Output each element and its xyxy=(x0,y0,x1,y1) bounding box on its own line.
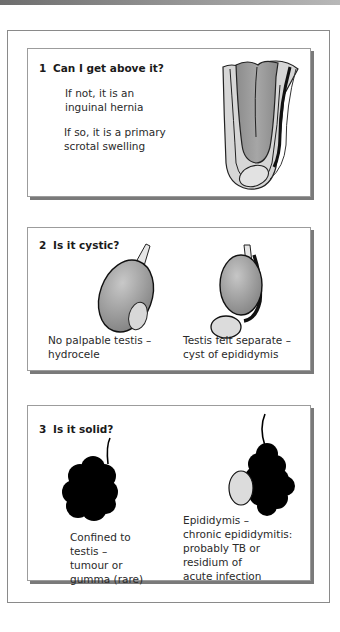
chronic-epididymitis-illustration xyxy=(223,412,303,522)
epididymal-cyst-caption: Testis felt separate – cyst of epididymi… xyxy=(183,333,291,361)
panel-number: 3 xyxy=(39,423,53,435)
scrotal-swelling-text: If so, it is a primary scrotal swelling xyxy=(64,125,166,153)
inguinal-hernia-illustration xyxy=(218,55,308,195)
hydrocele-caption: No palpable testis – hydrocele xyxy=(48,333,151,361)
top-bar xyxy=(0,0,340,5)
panel-number: 1 xyxy=(39,62,53,74)
tumour-caption: Confined to testis – tumour or gumma (ra… xyxy=(70,530,143,586)
panel-is-solid: 3Is it solid? Confined to testis – tumou… xyxy=(27,405,311,581)
testicular-tumour-illustration xyxy=(60,436,140,526)
panel-question: Can I get above it? xyxy=(53,62,164,74)
hydrocele-illustration xyxy=(88,240,168,340)
panel-question: Is it solid? xyxy=(53,423,113,435)
panel-title: 3Is it solid? xyxy=(39,423,113,435)
inguinal-hernia-text: If not, it is an inguinal hernia xyxy=(65,86,143,114)
panel-number: 2 xyxy=(39,239,53,251)
panel-title: 1Can I get above it? xyxy=(39,62,164,74)
panel-is-cystic: 2Is it cystic? No palpable testis – hydr… xyxy=(27,227,311,371)
panel-can-get-above: 1Can I get above it? If not, it is an in… xyxy=(27,48,311,197)
epididymitis-caption: Epididymis – chronic epididymitis: proba… xyxy=(183,513,292,583)
